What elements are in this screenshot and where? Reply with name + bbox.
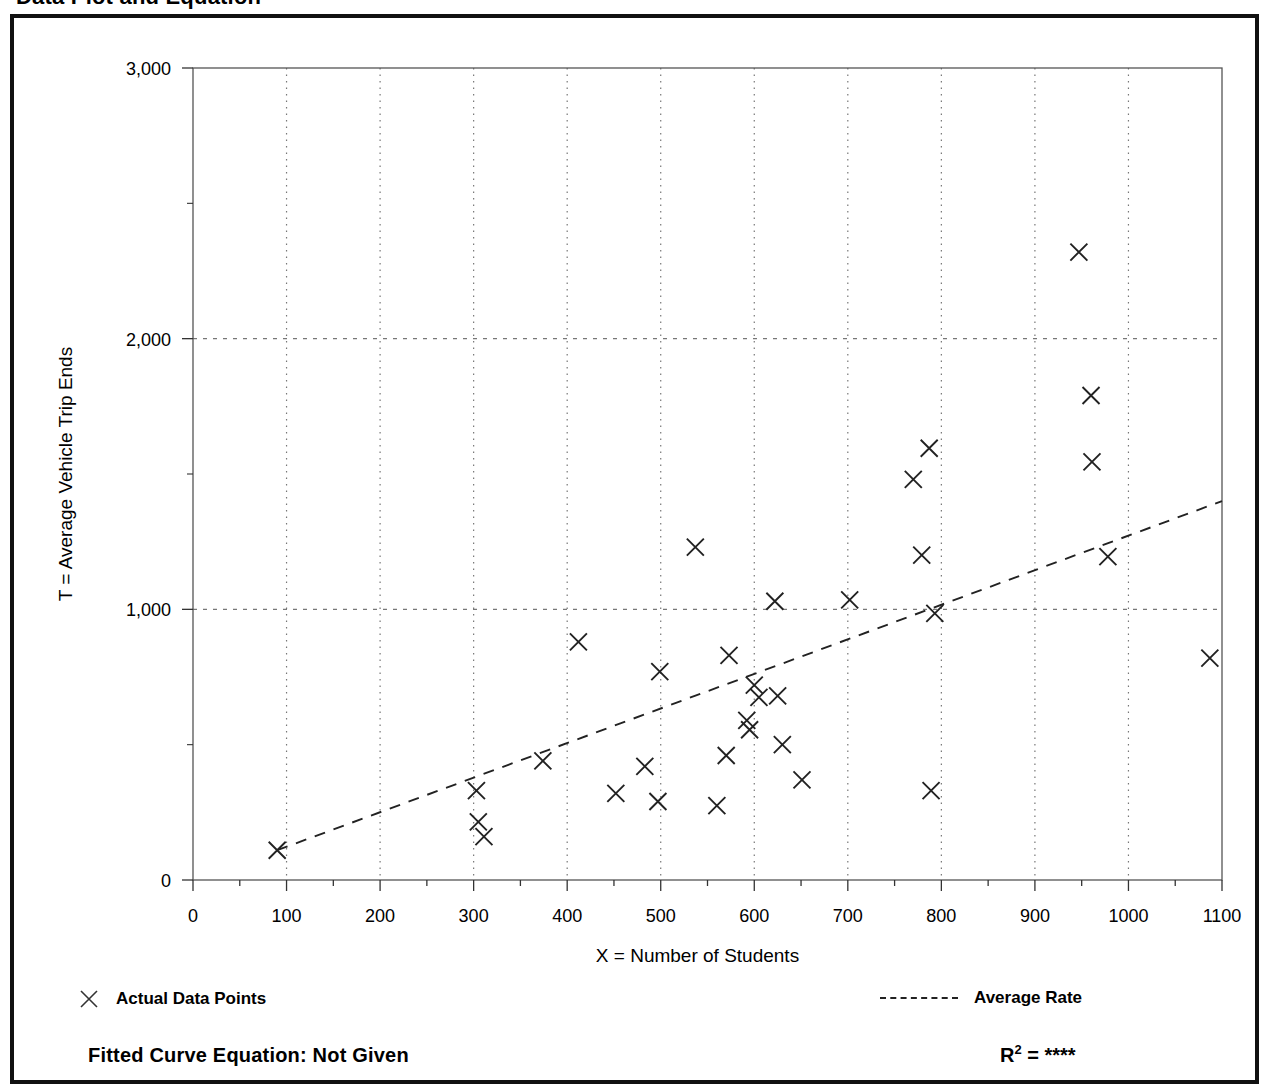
- r-squared-value: R2 = ****: [1000, 1042, 1076, 1067]
- data-point-marker: [905, 471, 922, 488]
- plot-area-border: [193, 68, 1222, 880]
- data-point-marker: [769, 687, 786, 704]
- dashed-line-icon: [880, 997, 958, 999]
- trend-line: [277, 501, 1222, 850]
- data-point-marker: [1099, 548, 1116, 565]
- legend-label-actual-data-points: Actual Data Points: [116, 989, 266, 1009]
- r-squared-prefix: R: [1000, 1044, 1014, 1066]
- data-point-marker: [607, 785, 624, 802]
- data-point-marker: [721, 647, 738, 664]
- y-axis-tick-label: 0: [161, 871, 171, 891]
- r-squared-symbol: R2 = ****: [1000, 1042, 1076, 1067]
- x-axis-tick-label: 900: [1020, 906, 1050, 926]
- data-point-marker: [766, 593, 783, 610]
- grid-lines: [193, 68, 1222, 880]
- x-axis-tick-label: 300: [459, 906, 489, 926]
- legend-item-average-rate: Average Rate: [880, 988, 1082, 1008]
- data-point-marker: [269, 842, 286, 859]
- data-point-marker: [1083, 453, 1100, 470]
- y-axis-tick-label: 3,000: [126, 59, 171, 79]
- data-point-marker: [636, 758, 653, 775]
- data-point-marker: [475, 828, 492, 845]
- axes: [193, 68, 1222, 880]
- data-point-marker: [793, 771, 810, 788]
- y-axis-tick-label: 2,000: [126, 330, 171, 350]
- x-axis-title: X = Number of Students: [596, 945, 799, 966]
- x-axis-tick-label: 500: [646, 906, 676, 926]
- data-point-marker: [1201, 650, 1218, 667]
- data-point-marker: [468, 782, 485, 799]
- r-squared-exponent: 2: [1014, 1042, 1021, 1057]
- data-point-marker: [708, 797, 725, 814]
- data-point-marker: [1083, 387, 1100, 404]
- x-axis-tick-label: 700: [833, 906, 863, 926]
- x-axis-tick-label: 1100: [1203, 906, 1242, 926]
- data-point-marker: [774, 736, 791, 753]
- axis-ticks: [182, 68, 1222, 891]
- data-point-marker: [470, 813, 487, 830]
- data-point-marker: [687, 539, 704, 556]
- x-axis-tick-label: 600: [739, 906, 769, 926]
- scatter-chart: 01002003004005006007008009001000110001,0…: [0, 0, 1273, 1092]
- x-axis-tick-label: 800: [926, 906, 956, 926]
- data-point-marker: [841, 591, 858, 608]
- data-point-marker: [718, 747, 735, 764]
- fitted-curve-equation-label: Fitted Curve Equation: Not Given: [88, 1044, 409, 1067]
- y-axis-title: T = Average Vehicle Trip Ends: [55, 347, 76, 601]
- y-axis-tick-label: 1,000: [126, 600, 171, 620]
- x-axis-tick-label: 200: [365, 906, 395, 926]
- data-point-marker: [651, 663, 668, 680]
- data-point-marker: [923, 782, 940, 799]
- x-axis-tick-label: 100: [272, 906, 302, 926]
- data-point-marker: [534, 752, 551, 769]
- x-axis-tick-label: 0: [188, 906, 198, 926]
- average-rate-trend-line: [277, 501, 1222, 850]
- data-point-marker: [1070, 244, 1087, 261]
- r-squared-result: = ****: [1027, 1044, 1075, 1066]
- data-point-marker: [649, 793, 666, 810]
- fitted-curve-equation: Fitted Curve Equation: Not Given: [88, 1044, 409, 1067]
- data-point-marker: [913, 547, 930, 564]
- x-axis-tick-label: 1000: [1108, 906, 1148, 926]
- legend-label-average-rate: Average Rate: [974, 988, 1082, 1008]
- x-marker-icon: [78, 988, 100, 1010]
- data-point-marker: [570, 633, 587, 650]
- x-axis-tick-label: 400: [552, 906, 582, 926]
- data-point-markers: [269, 244, 1219, 859]
- legend-item-actual-data-points: Actual Data Points: [78, 988, 266, 1010]
- data-point-marker: [921, 440, 938, 457]
- axis-tick-labels: 01002003004005006007008009001000110001,0…: [126, 59, 1241, 926]
- data-point-marker: [750, 689, 767, 706]
